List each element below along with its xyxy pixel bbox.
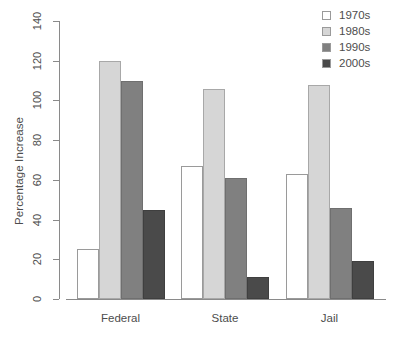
legend-item-1990s: 1990s (322, 40, 394, 54)
legend-swatch-1980s (322, 27, 331, 36)
bar-federal-1990s (121, 81, 143, 299)
y-axis-tick-label: 120 (30, 48, 44, 74)
y-axis-tick (53, 100, 59, 101)
x-axis-label-state: State (175, 312, 275, 324)
bar-jail-1970s (286, 174, 308, 299)
y-axis-tick (53, 21, 59, 22)
y-axis-tick (53, 299, 59, 300)
bar-federal-1980s (99, 61, 121, 299)
y-axis-tick-label: 40 (30, 207, 44, 233)
y-axis-tick-label: 60 (30, 167, 44, 193)
legend-label-1980s: 1980s (339, 25, 370, 37)
x-axis-label-jail: Jail (280, 312, 380, 324)
bar-state-1980s (203, 89, 225, 299)
x-axis-label-federal: Federal (71, 312, 171, 324)
y-axis-tick (53, 220, 59, 221)
legend-label-1990s: 1990s (339, 41, 370, 53)
bar-jail-2000s (352, 261, 374, 299)
y-axis-tick (53, 140, 59, 141)
legend-swatch-1970s (322, 11, 331, 20)
y-axis-title-text: Percentage Increase (8, 0, 30, 342)
legend-item-2000s: 2000s (322, 56, 394, 70)
bar-jail-1990s (330, 208, 352, 299)
y-axis-tick-label: 80 (30, 127, 44, 153)
chart-legend: 1970s1980s1990s2000s (322, 8, 394, 72)
legend-item-1970s: 1970s (322, 8, 394, 22)
legend-label-2000s: 2000s (339, 57, 370, 69)
y-axis-tick (53, 180, 59, 181)
legend-item-1980s: 1980s (322, 24, 394, 38)
bar-federal-1970s (77, 249, 99, 299)
y-axis-tick-label: 20 (30, 246, 44, 272)
bar-state-1970s (181, 166, 203, 299)
legend-swatch-1990s (322, 43, 331, 52)
bar-jail-1980s (308, 85, 330, 299)
y-axis-tick-label: 100 (30, 87, 44, 113)
bar-state-1990s (225, 178, 247, 299)
bar-federal-2000s (143, 210, 165, 299)
bar-state-2000s (247, 277, 269, 299)
legend-swatch-2000s (322, 59, 331, 68)
y-axis-tick-label: 140 (30, 8, 44, 34)
y-axis-tick-label: 0 (30, 286, 44, 312)
y-axis-tick (53, 259, 59, 260)
legend-label-1970s: 1970s (339, 9, 370, 21)
y-axis-tick (53, 61, 59, 62)
x-axis-line (66, 299, 386, 300)
bar-chart: Percentage Increase 020406080100120140 F… (0, 0, 396, 342)
